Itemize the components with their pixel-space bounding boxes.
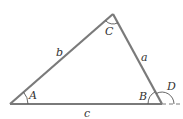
triangle-diagram: b a c A C B D [0,0,183,119]
angle-arc-A [24,92,28,104]
side-b [10,14,113,104]
angle-arc-B [148,92,155,104]
angle-label-C: C [105,25,114,38]
side-label-c: c [84,107,90,119]
angle-label-A: A [28,89,37,102]
angle-label-D: D [166,80,176,93]
side-a [113,14,162,104]
side-label-b: b [56,46,63,59]
side-label-a: a [141,51,148,64]
angle-label-B: B [138,90,147,103]
